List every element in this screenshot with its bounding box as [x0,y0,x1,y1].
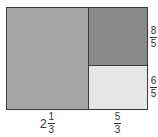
bottom-right-rectangle [88,65,148,110]
numerator: 6 [151,76,157,86]
numerator: 5 [115,112,121,122]
denominator: 3 [48,125,54,135]
whole-number: 2 [40,117,47,131]
label-bottom-right-height: 6 5 [150,76,157,99]
top-right-rectangle [88,7,148,66]
fraction: 1 3 [48,112,55,135]
left-rectangle [6,7,89,110]
denominator: 5 [151,89,157,99]
label-right-width: 5 3 [114,112,121,135]
denominator: 5 [151,39,157,49]
denominator: 3 [115,125,121,135]
numerator: 1 [48,112,54,122]
label-top-right-height: 8 5 [150,26,157,49]
label-left-width: 2 1 3 [40,112,55,135]
numerator: 8 [151,26,157,36]
